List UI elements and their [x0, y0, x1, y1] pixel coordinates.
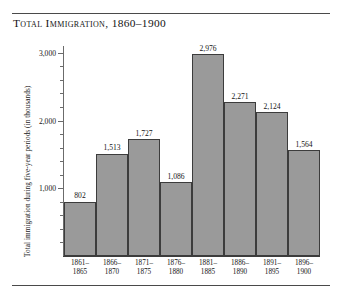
y-tick-minor [60, 107, 63, 108]
bar-column: 2,976 [192, 46, 224, 256]
bar-column: 2,124 [256, 46, 288, 256]
y-tick-minor [60, 93, 63, 94]
bar [96, 154, 128, 256]
bar [224, 102, 256, 256]
y-tick-label: 2,000 [39, 116, 56, 125]
title-rule-top [12, 13, 330, 14]
y-tick-label: 1,000 [39, 184, 56, 193]
y-tick-major [58, 188, 63, 189]
bar-value-label: 1,564 [288, 140, 320, 149]
x-axis-labels: 1861–18651866–18701871–18751876–18801881… [64, 259, 320, 278]
x-axis-tick-label: 1891–1895 [256, 259, 288, 278]
bar [288, 150, 320, 256]
y-tick-minor [60, 175, 63, 176]
plot-area: 1,0002,0003,000 8021,5131,7271,0862,9762… [64, 46, 320, 256]
x-axis-tick-label: 1886–1890 [224, 259, 256, 278]
bar [128, 139, 160, 256]
bar-value-label: 802 [64, 191, 96, 200]
y-tick-minor [60, 161, 63, 162]
y-tick-minor [60, 148, 63, 149]
x-axis-tick-label: 1876–1880 [160, 259, 192, 278]
bar-column: 802 [64, 46, 96, 256]
bar [160, 182, 192, 256]
y-tick-minor [60, 202, 63, 203]
bar-value-label: 1,086 [160, 172, 192, 181]
y-tick-major [58, 121, 63, 122]
chart-title: Total Immigration, 1860–1900 [13, 17, 166, 29]
y-tick-minor [60, 242, 63, 243]
y-tick-major [58, 53, 63, 54]
y-tick-minor [60, 215, 63, 216]
y-tick-label: 3,000 [39, 48, 56, 57]
y-axis-label: Total immigration during five-year perio… [23, 42, 32, 257]
bar [64, 202, 96, 256]
y-tick-minor [60, 229, 63, 230]
bar-series: 8021,5131,7271,0862,9762,2712,1241,564 [64, 46, 320, 256]
y-tick-minor [60, 134, 63, 135]
bar-value-label: 1,727 [128, 129, 160, 138]
x-axis-tick-label: 1866–1870 [96, 259, 128, 278]
y-tick-minor [60, 80, 63, 81]
immigration-bar-chart-figure: Total Immigration, 1860–1900 Total immig… [0, 0, 340, 297]
bar-column: 1,564 [288, 46, 320, 256]
bar-value-label: 2,271 [224, 92, 256, 101]
y-axis-label-container: Total immigration during five-year perio… [12, 42, 26, 257]
bar-value-label: 2,124 [256, 102, 288, 111]
bar-column: 2,271 [224, 46, 256, 256]
y-tick-minor [60, 66, 63, 67]
figure-rule-bottom [12, 285, 330, 286]
bar [256, 112, 288, 256]
bar-value-label: 1,513 [96, 143, 128, 152]
bar-value-label: 2,976 [192, 44, 224, 53]
x-axis-tick-label: 1881–1885 [192, 259, 224, 278]
x-axis-tick-label: 1896–1900 [288, 259, 320, 278]
bar-column: 1,086 [160, 46, 192, 256]
bar [192, 54, 224, 256]
x-axis-tick-label: 1861–1865 [64, 259, 96, 278]
bar-column: 1,727 [128, 46, 160, 256]
x-axis-tick-label: 1871–1875 [128, 259, 160, 278]
bar-column: 1,513 [96, 46, 128, 256]
x-axis-baseline [63, 256, 320, 257]
